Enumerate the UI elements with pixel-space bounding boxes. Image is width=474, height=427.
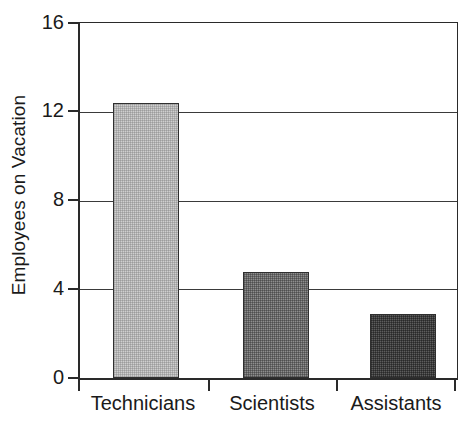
y-tick-mark-4 bbox=[68, 288, 78, 290]
y-tick-mark-8 bbox=[68, 199, 78, 201]
y-tick-0: 0 bbox=[40, 377, 78, 378]
y-tick-label-16: 16 bbox=[42, 11, 64, 34]
y-tick-4: 4 bbox=[40, 288, 78, 289]
x-tick-2 bbox=[336, 379, 338, 391]
y-tick-mark-12 bbox=[68, 110, 78, 112]
x-tick-1 bbox=[208, 379, 210, 391]
y-tick-8: 8 bbox=[40, 199, 78, 200]
y-tick-12: 12 bbox=[40, 110, 78, 111]
y-tick-16: 16 bbox=[40, 22, 78, 23]
x-tick-0 bbox=[78, 379, 80, 391]
bar-assistants[interactable] bbox=[370, 314, 436, 378]
bar-scientists[interactable] bbox=[243, 272, 309, 379]
y-axis-title: Employees on Vacation bbox=[0, 0, 38, 390]
y-tick-label-4: 4 bbox=[53, 277, 64, 300]
y-tick-mark-16 bbox=[68, 22, 78, 24]
y-tick-mark-0 bbox=[68, 377, 78, 379]
plot-area bbox=[78, 22, 458, 380]
y-tick-label-0: 0 bbox=[53, 366, 64, 389]
x-label-technicians: Technicians bbox=[78, 392, 208, 415]
x-tick-3 bbox=[454, 379, 456, 391]
x-label-assistants: Assistants bbox=[336, 392, 456, 415]
y-tick-label-12: 12 bbox=[42, 99, 64, 122]
bar-chart: Employees on Vacation 16 12 8 4 0 Techni… bbox=[0, 0, 474, 427]
bar-technicians[interactable] bbox=[113, 103, 179, 378]
x-label-scientists: Scientists bbox=[208, 392, 336, 415]
y-tick-label-8: 8 bbox=[53, 188, 64, 211]
y-axis-title-text: Employees on Vacation bbox=[8, 95, 30, 295]
